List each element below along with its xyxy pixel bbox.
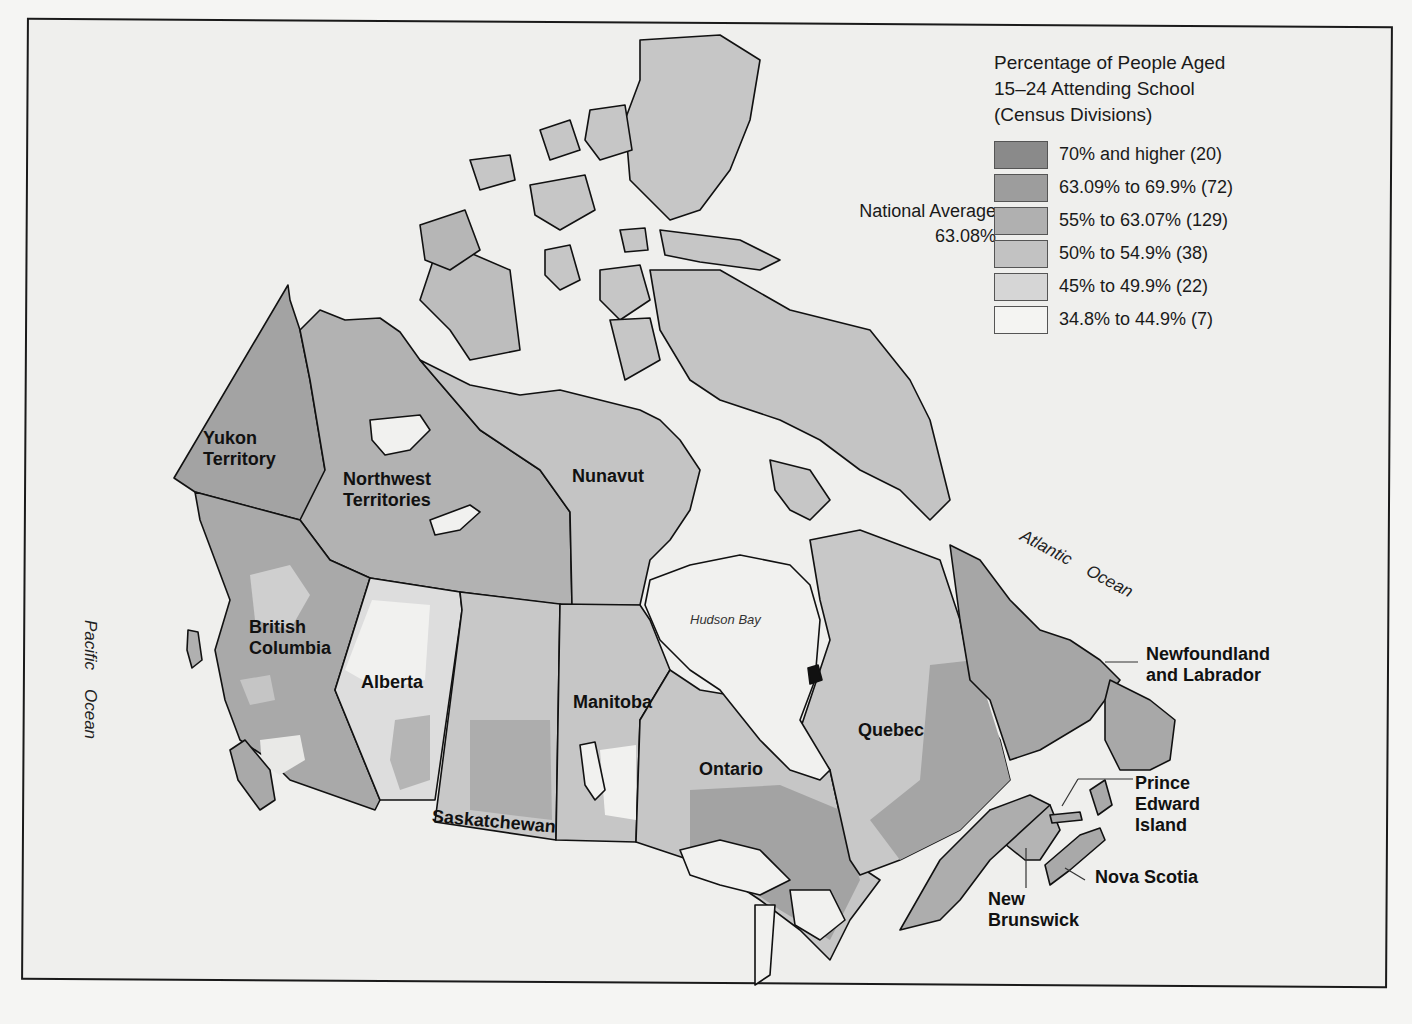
label-yukon-line2: Territory xyxy=(203,449,276,470)
national-average: National Average 63.08% xyxy=(810,199,996,249)
legend-title-line1: Percentage of People Aged xyxy=(994,50,1324,76)
sask-patch-dark xyxy=(470,720,552,820)
leader-nova-scotia xyxy=(1065,868,1085,880)
legend-title-line2: 15–24 Attending School xyxy=(994,76,1324,102)
label-pei: Prince Edward Island xyxy=(1135,773,1200,836)
legend-title: Percentage of People Aged 15–24 Attendin… xyxy=(994,50,1324,128)
manitoba-patch-white xyxy=(600,745,636,820)
island-small-2 xyxy=(540,120,580,160)
label-bc-line2: Columbia xyxy=(249,638,331,659)
legend-label: 45% to 49.9% (22) xyxy=(1059,276,1208,297)
island-small-6 xyxy=(610,318,660,380)
legend-swatch-45-50 xyxy=(994,273,1048,301)
island-melville xyxy=(530,175,595,230)
region-yukon xyxy=(174,285,330,520)
region-newfoundland xyxy=(1105,680,1175,770)
region-cape-breton xyxy=(1090,780,1112,815)
island-haida-gwaii xyxy=(187,630,202,668)
label-pacific-word1: Pacific xyxy=(81,620,100,670)
legend-item: 70% and higher (20) xyxy=(994,138,1324,171)
label-nwt-line1: Northwest xyxy=(343,469,431,490)
legend-item: 45% to 49.9% (22) xyxy=(994,270,1324,303)
legend-label: 50% to 54.9% (38) xyxy=(1059,243,1208,264)
legend-label: 55% to 63.07% (129) xyxy=(1059,210,1228,231)
label-ontario: Ontario xyxy=(699,759,763,780)
label-nova-scotia: Nova Scotia xyxy=(1095,867,1198,888)
legend-label: 70% and higher (20) xyxy=(1059,144,1222,165)
region-pei xyxy=(1050,812,1082,823)
island-devon xyxy=(660,230,780,270)
label-nunavut: Nunavut xyxy=(572,466,644,487)
label-pei-line2: Edward xyxy=(1135,794,1200,815)
legend-title-line3: (Census Divisions) xyxy=(994,102,1324,128)
label-alberta: Alberta xyxy=(361,672,423,693)
island-ellesmere xyxy=(625,35,760,220)
label-nl-line1: Newfoundland xyxy=(1146,644,1270,665)
legend-swatch-35-45 xyxy=(994,306,1048,334)
legend-swatch-70-plus xyxy=(994,141,1048,169)
legend-item: 34.8% to 44.9% (7) xyxy=(994,303,1324,336)
legend-swatch-50-55 xyxy=(994,240,1048,268)
label-nb-line2: Brunswick xyxy=(988,910,1079,931)
island-small-3 xyxy=(620,228,648,252)
label-nwt: Northwest Territories xyxy=(343,469,431,511)
label-yukon-line1: Yukon xyxy=(203,428,276,449)
lake-michigan xyxy=(755,905,775,985)
label-manitoba: Manitoba xyxy=(573,692,652,713)
legend-item: 50% to 54.9% (38) xyxy=(994,237,1324,270)
label-nwt-line2: Territories xyxy=(343,490,431,511)
label-quebec: Quebec xyxy=(858,720,924,741)
label-bc-line1: British xyxy=(249,617,331,638)
label-pacific-ocean: Pacific Ocean xyxy=(80,620,100,739)
island-small-4 xyxy=(545,245,580,290)
legend-item: 55% to 63.07% (129) xyxy=(994,204,1324,237)
label-nl-line2: and Labrador xyxy=(1146,665,1270,686)
leader-pei-2 xyxy=(1062,779,1078,806)
legend: Percentage of People Aged 15–24 Attendin… xyxy=(994,50,1324,336)
label-pacific-word2: Ocean xyxy=(81,689,100,739)
label-yukon: Yukon Territory xyxy=(203,428,276,470)
label-new-brunswick: New Brunswick xyxy=(988,889,1079,931)
island-southampton xyxy=(770,460,830,520)
label-newfoundland-labrador: Newfoundland and Labrador xyxy=(1146,644,1270,686)
label-bc: British Columbia xyxy=(249,617,331,659)
legend-label: 63.09% to 69.9% (72) xyxy=(1059,177,1233,198)
label-pei-line3: Island xyxy=(1135,815,1200,836)
island-small-5 xyxy=(600,265,650,320)
national-average-value: 63.08% xyxy=(810,224,996,249)
label-hudson-bay: Hudson Bay xyxy=(690,612,761,627)
legend-items: 70% and higher (20) 63.09% to 69.9% (72)… xyxy=(994,138,1324,336)
legend-swatch-63-70 xyxy=(994,174,1048,202)
label-nb-line1: New xyxy=(988,889,1079,910)
island-axel xyxy=(585,105,632,160)
label-pei-line1: Prince xyxy=(1135,773,1200,794)
legend-label: 34.8% to 44.9% (7) xyxy=(1059,309,1213,330)
national-average-label: National Average xyxy=(810,199,996,224)
legend-swatch-55-63 xyxy=(994,207,1048,235)
island-small-1 xyxy=(470,155,515,190)
legend-item: 63.09% to 69.9% (72) xyxy=(994,171,1324,204)
